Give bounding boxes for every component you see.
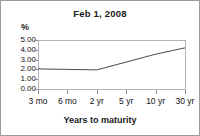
- series-line-yield: [38, 48, 185, 70]
- chart-title: Feb 1, 2008: [1, 8, 199, 19]
- x-axis-title: Years to maturity: [1, 115, 199, 125]
- yield-curve-line-chart: [38, 40, 186, 90]
- y-axis-unit-label: %: [21, 22, 29, 32]
- y-tick-label: 5.00: [4, 36, 36, 44]
- x-tick-mark: [38, 90, 39, 94]
- x-tick-mark: [156, 90, 157, 94]
- x-tick-mark: [97, 90, 98, 94]
- y-tick-label: 1.00: [4, 75, 36, 83]
- y-axis-tick-labels: 5.004.003.002.001.000.00: [4, 37, 36, 93]
- x-axis-tick-labels: 3 mo6 mo2 yr5 yr10 yr30 yr: [9, 96, 195, 110]
- x-tick-mark: [67, 90, 68, 94]
- x-tick-label: 30 yr: [165, 96, 200, 107]
- y-tick-label: 4.00: [4, 46, 36, 54]
- y-tick-label: 3.00: [4, 56, 36, 64]
- y-tick-label: 0.00: [4, 85, 36, 93]
- x-axis-tick-marks: [38, 90, 186, 94]
- x-tick-mark: [185, 90, 186, 94]
- x-tick-mark: [126, 90, 127, 94]
- y-tick-label: 2.00: [4, 65, 36, 73]
- chart-card: Feb 1, 2008 % 5.004.003.002.001.000.00 3…: [0, 0, 200, 136]
